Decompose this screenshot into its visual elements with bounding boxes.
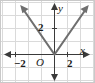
y-tick-label-pos2: 2 bbox=[38, 22, 44, 33]
x-tick-label-pos2: 2 bbox=[67, 58, 73, 69]
x-axis-label: x bbox=[80, 45, 85, 56]
x-tick-label-neg2: −2 bbox=[14, 58, 26, 69]
origin-label: O bbox=[36, 57, 44, 68]
y-axis-label: y bbox=[58, 3, 63, 14]
graph-canvas bbox=[0, 0, 95, 83]
graph-figure: x y −2 2 2 O bbox=[0, 0, 95, 83]
